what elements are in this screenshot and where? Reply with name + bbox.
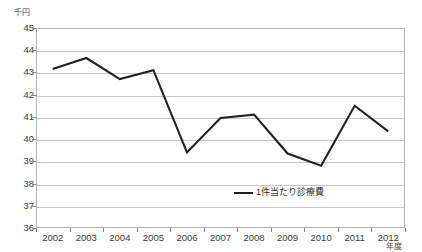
y-axis-tick-label: 45 [8,23,34,33]
gridline [37,207,404,208]
y-axis-tick-mark [32,95,36,96]
y-axis-tick-label: 36 [8,223,34,233]
x-axis-tick-mark [36,228,37,232]
y-axis-tick-mark [32,139,36,140]
x-axis-tick-mark [271,228,272,232]
y-axis-tick-label: 40 [8,134,34,144]
gridline [37,96,404,97]
gridline [37,118,404,119]
x-axis-tick-mark [405,228,406,232]
line-chart: 千円 45444342414039383736 2002200320042005… [0,0,422,252]
y-axis-unit-label: 千円 [14,8,30,18]
y-axis-tick-mark [32,50,36,51]
gridline [37,73,404,74]
x-axis-tick-mark [137,228,138,232]
y-axis-tick-mark [32,28,36,29]
gridline [37,140,404,141]
legend: 1件当たり診療費 [232,186,326,199]
gridline [37,185,404,186]
y-axis-tick-mark [32,161,36,162]
y-axis-tick-label: 38 [8,179,34,189]
y-axis-tick-label: 41 [8,112,34,122]
x-axis-tick-mark [70,228,71,232]
x-axis-tick-mark [237,228,238,232]
y-axis-tick-mark [32,117,36,118]
y-axis-tick-label: 44 [8,45,34,55]
x-axis-title: 年度 [386,242,402,251]
y-axis-tick-label: 43 [8,67,34,77]
y-axis-tick-label: 42 [8,90,34,100]
x-axis-tick-mark [371,228,372,232]
gridline [37,162,404,163]
y-axis-tick-mark [32,206,36,207]
plot-area [36,28,405,228]
gridline [37,51,404,52]
legend-label: 1件当たり診療費 [256,187,324,198]
y-axis-tick-mark [32,72,36,73]
y-axis-tick-label: 39 [8,156,34,166]
x-axis-tick-mark [338,228,339,232]
x-axis-tick-mark [204,228,205,232]
y-axis-tick-label: 37 [8,201,34,211]
x-axis-tick-mark [304,228,305,232]
legend-line-swatch [234,192,253,194]
x-axis-tick-mark [103,228,104,232]
y-axis-tick-mark [32,184,36,185]
x-axis-tick-mark [170,228,171,232]
